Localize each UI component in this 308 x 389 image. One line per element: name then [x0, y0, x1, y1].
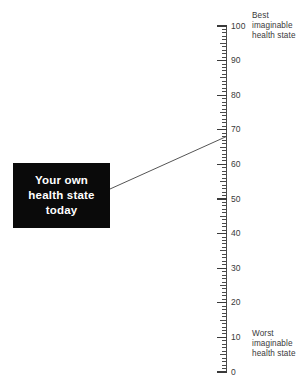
scale-tick-46 [222, 212, 227, 213]
scale-tick-86 [222, 74, 227, 75]
scale-tick-24 [222, 288, 227, 289]
scale-tick-label-10: 10 [231, 333, 241, 342]
scale-tick-55 [220, 181, 227, 182]
scale-tick-7 [222, 347, 227, 348]
scale-tick-5 [220, 354, 227, 355]
scale-tick-38 [222, 240, 227, 241]
scale-tick-25 [220, 285, 227, 286]
scale-tick-57 [222, 174, 227, 175]
scale-tick-42 [222, 226, 227, 227]
scale-tick-56 [222, 178, 227, 179]
scale-tick-77 [222, 105, 227, 106]
scale-tick-35 [220, 250, 227, 251]
scale-tick-62 [222, 157, 227, 158]
scale-tick-87 [222, 70, 227, 71]
scale-tick-74 [222, 115, 227, 116]
scale-tick-14 [222, 323, 227, 324]
scale-tick-100 [217, 25, 227, 26]
scale-tick-99 [222, 29, 227, 30]
scale-tick-8 [222, 344, 227, 345]
anchor-worst-line-2: imaginable [252, 339, 296, 349]
scale-tick-33 [222, 257, 227, 258]
scale-tick-83 [222, 84, 227, 85]
scale-tick-3 [222, 361, 227, 362]
scale-tick-85 [220, 77, 227, 78]
scale-tick-2 [222, 365, 227, 366]
scale-tick-22 [222, 295, 227, 296]
scale-tick-17 [222, 313, 227, 314]
scale-tick-65 [220, 147, 227, 148]
scale-tick-39 [222, 237, 227, 238]
scale-tick-69 [222, 133, 227, 134]
scale-tick-label-60: 60 [231, 160, 241, 169]
scale-tick-96 [222, 39, 227, 40]
scale-tick-18 [222, 309, 227, 310]
scale-tick-13 [222, 327, 227, 328]
scale-tick-53 [222, 188, 227, 189]
scale-tick-52 [222, 192, 227, 193]
scale-tick-63 [222, 154, 227, 155]
scale-tick-82 [222, 88, 227, 89]
scale-tick-90 [217, 60, 227, 61]
scale-tick-98 [222, 32, 227, 33]
scale-tick-58 [222, 171, 227, 172]
scale-tick-84 [222, 81, 227, 82]
scale-tick-71 [222, 126, 227, 127]
scale-tick-66 [222, 143, 227, 144]
anchor-best-line-3: health state [252, 31, 296, 41]
scale-tick-11 [222, 333, 227, 334]
scale-tick-51 [222, 195, 227, 196]
scale-tick-79 [222, 98, 227, 99]
scale-tick-30 [217, 268, 227, 269]
scale-tick-32 [222, 261, 227, 262]
anchor-worst-line-1: Worst [252, 329, 296, 339]
scale-tick-44 [222, 219, 227, 220]
scale-tick-label-0: 0 [231, 368, 236, 377]
scale-tick-10 [217, 337, 227, 338]
scale-tick-26 [222, 282, 227, 283]
scale-tick-48 [222, 205, 227, 206]
scale-tick-80 [217, 95, 227, 96]
scale-tick-70 [217, 129, 227, 130]
scale-tick-20 [217, 302, 227, 303]
scale-tick-68 [222, 136, 227, 137]
scale-tick-label-90: 90 [231, 56, 241, 65]
scale-tick-36 [222, 247, 227, 248]
vas-scale: 1009080706050403020100 Best imaginable h… [0, 0, 308, 389]
scale-tick-label-40: 40 [231, 229, 241, 238]
scale-tick-15 [220, 320, 227, 321]
scale-tick-1 [222, 368, 227, 369]
scale-tick-4 [222, 358, 227, 359]
scale-tick-93 [222, 50, 227, 51]
scale-tick-54 [222, 185, 227, 186]
scale-tick-27 [222, 278, 227, 279]
anchor-worst-line-3: health state [252, 349, 296, 359]
scale-tick-67 [222, 140, 227, 141]
scale-tick-19 [222, 306, 227, 307]
scale-tick-9 [222, 340, 227, 341]
scale-tick-97 [222, 36, 227, 37]
scale-tick-41 [222, 230, 227, 231]
scale-tick-75 [220, 112, 227, 113]
scale-tick-72 [222, 122, 227, 123]
scale-tick-45 [220, 216, 227, 217]
anchor-best-line-1: Best [252, 11, 296, 21]
scale-tick-37 [222, 243, 227, 244]
scale-tick-95 [220, 43, 227, 44]
scale-tick-43 [222, 223, 227, 224]
scale-tick-29 [222, 271, 227, 272]
scale-tick-78 [222, 102, 227, 103]
anchor-label-best: Best imaginable health state [252, 11, 296, 42]
scale-tick-16 [222, 316, 227, 317]
scale-tick-label-100: 100 [231, 22, 245, 31]
scale-tick-50 [217, 198, 227, 199]
scale-tick-40 [217, 233, 227, 234]
scale-tick-21 [222, 299, 227, 300]
scale-tick-89 [222, 64, 227, 65]
anchor-label-worst: Worst imaginable health state [252, 329, 296, 360]
scale-tick-91 [222, 57, 227, 58]
scale-tick-47 [222, 209, 227, 210]
scale-tick-94 [222, 46, 227, 47]
scale-tick-92 [222, 53, 227, 54]
scale-tick-34 [222, 254, 227, 255]
